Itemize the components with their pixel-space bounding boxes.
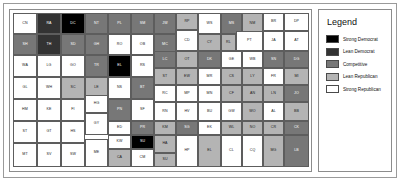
- county-ws[interactable]: WS: [198, 13, 221, 34]
- county-hm[interactable]: HM: [13, 99, 37, 121]
- county-ke[interactable]: KE: [37, 99, 61, 121]
- county-ot[interactable]: OT: [176, 51, 198, 68]
- county-rp[interactable]: RP: [176, 13, 198, 30]
- county-wl[interactable]: WL: [221, 121, 242, 135]
- county-rl[interactable]: RL: [221, 34, 236, 51]
- county-ja[interactable]: JA: [263, 31, 284, 51]
- county-hp[interactable]: HP: [176, 135, 198, 167]
- county-cr[interactable]: CR: [263, 121, 284, 135]
- county-fi[interactable]: FI: [61, 99, 85, 121]
- county-jo[interactable]: JO: [284, 85, 309, 102]
- county-ha[interactable]: HA: [154, 135, 176, 153]
- county-label: MG: [271, 149, 277, 153]
- county-sm[interactable]: SM: [131, 13, 154, 34]
- county-el2[interactable]: EL: [198, 135, 221, 167]
- county-go[interactable]: GO: [61, 55, 85, 77]
- county-ew[interactable]: EW: [176, 68, 198, 85]
- county-pt[interactable]: PT: [236, 31, 263, 51]
- county-th[interactable]: TH: [37, 34, 61, 55]
- county-an[interactable]: AN: [242, 85, 263, 102]
- county-ln[interactable]: LN: [263, 85, 284, 102]
- county-cf[interactable]: CF: [221, 85, 242, 102]
- county-at[interactable]: AT: [284, 31, 309, 51]
- county-rc[interactable]: RC: [154, 85, 176, 102]
- county-cl[interactable]: CL: [221, 135, 242, 167]
- county-cq[interactable]: CQ: [242, 135, 263, 167]
- county-su[interactable]: SU: [131, 135, 154, 149]
- county-ro[interactable]: RO: [108, 34, 131, 55]
- county-dk[interactable]: DK: [198, 51, 221, 68]
- county-km[interactable]: KM: [154, 121, 176, 135]
- county-el[interactable]: EL: [108, 55, 131, 77]
- county-mi[interactable]: MI: [284, 68, 309, 85]
- county-al[interactable]: AL: [263, 102, 284, 121]
- county-bb[interactable]: BB: [284, 102, 309, 121]
- county-label: SU: [140, 140, 145, 144]
- county-gy[interactable]: GY: [85, 113, 108, 135]
- county-wo[interactable]: WO: [242, 102, 263, 121]
- county-sh[interactable]: SH: [13, 34, 37, 55]
- kansas-county-map[interactable]: CNRADCNTPLSMJWRPWSMSNMBRDPSHTHSDGHROOBMC…: [9, 9, 312, 172]
- county-ge[interactable]: GE: [221, 51, 242, 68]
- county-lg[interactable]: LG: [37, 55, 61, 77]
- county-lc[interactable]: LC: [154, 51, 176, 68]
- county-bt[interactable]: BT: [131, 77, 154, 99]
- county-ns[interactable]: NS: [108, 77, 131, 99]
- county-gt[interactable]: GT: [37, 121, 61, 143]
- county-ly[interactable]: LY: [242, 68, 263, 85]
- county-sv[interactable]: SV: [37, 143, 61, 167]
- county-rs[interactable]: RS: [131, 55, 154, 77]
- county-sd[interactable]: SD: [61, 34, 85, 55]
- county-rn[interactable]: RN: [154, 102, 176, 121]
- county-su2[interactable]: SU: [154, 153, 176, 167]
- county-fr[interactable]: FR: [263, 68, 284, 85]
- county-ra[interactable]: RA: [37, 13, 61, 34]
- county-tr[interactable]: TR: [85, 55, 108, 77]
- county-hs[interactable]: HS: [61, 121, 85, 143]
- county-wa[interactable]: WA: [13, 55, 37, 77]
- county-ek[interactable]: EK: [198, 121, 221, 135]
- county-dg[interactable]: DG: [284, 51, 309, 68]
- county-me[interactable]: ME: [85, 139, 108, 167]
- county-mt[interactable]: MT: [13, 143, 37, 167]
- county-ob[interactable]: OB: [131, 34, 154, 55]
- county-sf[interactable]: SF: [131, 99, 154, 121]
- county-ca[interactable]: CA: [108, 149, 131, 167]
- county-jw[interactable]: JW: [154, 13, 176, 34]
- county-cn[interactable]: CN: [13, 13, 37, 34]
- county-dp[interactable]: DP: [284, 13, 309, 31]
- county-cs[interactable]: CS: [221, 68, 242, 85]
- county-pr[interactable]: PR: [131, 121, 154, 135]
- county-pl[interactable]: PL: [108, 13, 131, 34]
- county-lb[interactable]: LB: [284, 135, 309, 167]
- county-gw[interactable]: GW: [221, 102, 242, 121]
- county-nt[interactable]: NT: [85, 13, 108, 34]
- county-gl[interactable]: GL: [13, 77, 37, 99]
- county-sw[interactable]: SW: [61, 143, 85, 167]
- county-st[interactable]: ST: [13, 121, 37, 143]
- county-cd[interactable]: CD: [176, 30, 198, 51]
- county-ck[interactable]: CK: [284, 121, 309, 135]
- county-no[interactable]: NO: [242, 121, 263, 135]
- county-hv[interactable]: HV: [176, 102, 198, 121]
- county-mp[interactable]: MP: [176, 85, 198, 102]
- county-mg[interactable]: MG: [263, 135, 284, 167]
- county-dc[interactable]: DC: [61, 13, 85, 34]
- county-hg[interactable]: HG: [85, 95, 108, 113]
- county-kw[interactable]: KW: [108, 135, 131, 149]
- county-st[interactable]: ST: [154, 68, 176, 85]
- county-wb[interactable]: WB: [242, 51, 263, 68]
- county-br[interactable]: BR: [263, 13, 284, 31]
- county-pn[interactable]: PN: [108, 99, 131, 121]
- county-sn[interactable]: SN: [263, 51, 284, 68]
- county-cm[interactable]: CM: [131, 149, 154, 167]
- county-sg[interactable]: SG: [176, 121, 198, 135]
- county-wh[interactable]: WH: [37, 77, 61, 99]
- county-sc[interactable]: SC: [61, 77, 85, 99]
- county-ed[interactable]: ED: [108, 121, 131, 135]
- county-mn[interactable]: MN: [198, 85, 221, 102]
- county-gh[interactable]: GH: [85, 34, 108, 55]
- county-bu[interactable]: BU: [198, 102, 221, 121]
- county-mr[interactable]: MR: [198, 68, 221, 85]
- county-cy[interactable]: CY: [198, 34, 221, 51]
